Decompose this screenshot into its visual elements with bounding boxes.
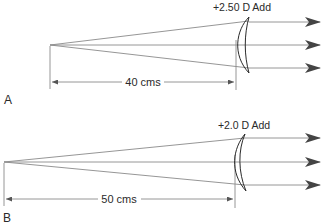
lens-power-label: +2.0 D Add xyxy=(218,119,270,131)
ray-bottom-incident xyxy=(4,162,245,185)
distance-label: 40 cms xyxy=(125,76,161,88)
ray-bottom-incident xyxy=(50,45,249,68)
panel-letter: B xyxy=(3,211,11,224)
distance-label: 50 cms xyxy=(101,193,137,205)
ray-top-incident xyxy=(4,138,245,162)
panel-letter: A xyxy=(4,93,12,107)
lens-power-label: +2.50 D Add xyxy=(213,1,271,13)
add-power-diagram: 40 cms +2.50 D Add A 50 cms +2.0 D Add B xyxy=(0,0,326,224)
ray-top-incident xyxy=(50,21,249,45)
panel-a: 40 cms +2.50 D Add A xyxy=(4,1,320,107)
panel-b: 50 cms +2.0 D Add B xyxy=(3,119,320,224)
lens-icon xyxy=(235,134,246,191)
